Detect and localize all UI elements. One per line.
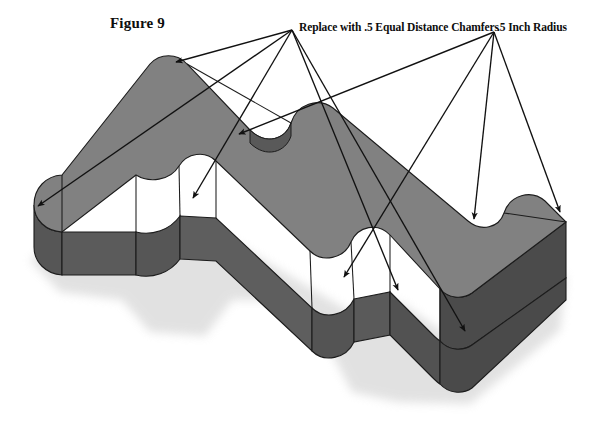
- annotation-radius-note: .5 Inch Radius: [497, 22, 567, 34]
- annotation-chamfer-note: Replace with .5 Equal Distance Chamfers: [299, 22, 499, 34]
- isometric-part-diagram: [0, 0, 599, 439]
- figure-title: Figure 9: [110, 16, 165, 31]
- figure-page: Figure 9 Replace with .5 Equal Distance …: [0, 0, 599, 439]
